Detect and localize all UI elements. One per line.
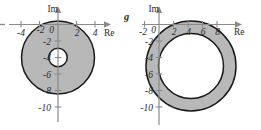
xtick-label-2: 2 (172, 27, 177, 37)
ytick-label--8: -8 (145, 86, 153, 96)
xtick-label--2: -2 (37, 25, 45, 35)
ytick-label--4: -4 (43, 53, 51, 63)
imaginary-axis-label: Im (47, 4, 58, 14)
ytick-label--6: -6 (43, 70, 51, 80)
real-axis-label: Re (234, 27, 245, 37)
ytick-label--2: -2 (43, 37, 51, 47)
xtick-label-8: 8 (215, 27, 220, 37)
ytick-label--8: -8 (43, 86, 51, 96)
panel-label-text: g (124, 11, 129, 22)
two-panel-complex-plane-figure: -4 -2 2 4 -2 -4 -6 -8 -10 0 Im Re g (0, 0, 261, 130)
xtick-label--4: -4 (17, 28, 25, 38)
xtick-label-2: 2 (75, 28, 80, 38)
imaginary-axis-label: Im (148, 4, 159, 14)
xtick-label-4: 4 (186, 27, 191, 37)
real-axis-arrow (104, 21, 111, 28)
xtick-label--2: -2 (139, 27, 147, 37)
ytick-label--4: -4 (145, 53, 153, 63)
right-plot: -2 2 4 6 8 -2 -4 -6 -8 -10 0 Im Re (130, 0, 261, 130)
ytick-label--10: -10 (38, 103, 51, 113)
real-axis-label: Re (104, 28, 115, 38)
origin-label: 0 (151, 25, 156, 35)
left-plot: -4 -2 2 4 -2 -4 -6 -8 -10 0 Im Re (0, 0, 131, 130)
inner-hole-shape (159, 34, 224, 99)
ytick-label--6: -6 (145, 70, 153, 80)
ytick-label--2: -2 (145, 37, 153, 47)
ytick-label--10: -10 (140, 103, 153, 113)
origin-label: 0 (49, 25, 54, 35)
xtick-label-4: 4 (93, 28, 98, 38)
xtick-label-6: 6 (201, 27, 206, 37)
